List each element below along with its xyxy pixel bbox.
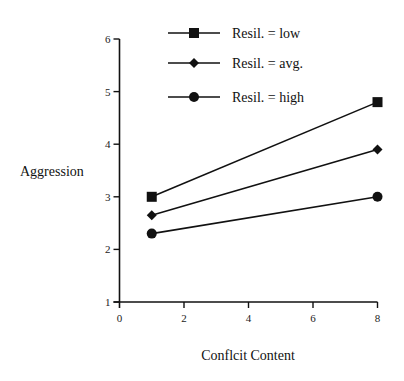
series-line	[147, 144, 383, 220]
x-tick-label: 2	[181, 312, 187, 324]
series-line	[147, 192, 383, 239]
x-tick-label: 4	[246, 312, 252, 324]
x-tick-label: 6	[310, 312, 316, 324]
y-axis-title: Aggression	[20, 164, 84, 179]
y-tick-label: 2	[105, 243, 111, 255]
x-tick-label: 0	[117, 312, 123, 324]
legend-label: Resil. = avg.	[232, 56, 303, 71]
legend-label: Resil. = high	[232, 90, 304, 105]
circle-marker-icon	[373, 192, 383, 202]
diamond-marker-icon	[189, 58, 199, 68]
y-tick-label: 5	[105, 86, 111, 98]
legend-label: Resil. = low	[232, 26, 301, 41]
interaction-line-chart: 12345602468 Resil. = lowResil. = avg.Res…	[0, 0, 404, 381]
diamond-marker-icon	[147, 210, 157, 220]
data-series	[147, 97, 383, 239]
y-tick-label: 4	[105, 138, 111, 150]
y-tick-label: 6	[105, 33, 111, 45]
axes: 12345602468	[105, 33, 381, 324]
x-tick-label: 8	[375, 312, 381, 324]
legend-item: Resil. = low	[168, 26, 301, 41]
y-tick-label: 1	[105, 296, 111, 308]
square-marker-icon	[147, 192, 157, 202]
y-tick-label: 3	[105, 191, 111, 203]
series-line	[147, 97, 383, 202]
square-marker-icon	[373, 97, 383, 107]
circle-marker-icon	[189, 92, 199, 102]
circle-marker-icon	[147, 229, 157, 239]
legend: Resil. = lowResil. = avg.Resil. = high	[168, 26, 304, 105]
legend-item: Resil. = high	[168, 90, 304, 105]
legend-item: Resil. = avg.	[168, 56, 303, 71]
square-marker-icon	[189, 28, 199, 38]
x-axis-title: Conflcit Content	[201, 348, 295, 363]
diamond-marker-icon	[373, 144, 383, 154]
